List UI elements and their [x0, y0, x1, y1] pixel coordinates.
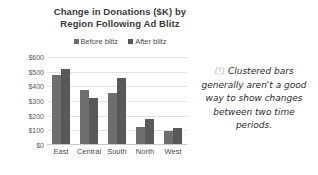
- x-tick-label-south: South: [104, 147, 130, 156]
- legend-swatch-icon-before-blitz: [74, 39, 79, 44]
- bar-central-series-1: [80, 90, 89, 145]
- x-tick-label-east: East: [48, 147, 74, 156]
- y-tick-label: $0: [36, 142, 44, 149]
- y-tick-label: $100: [28, 127, 44, 134]
- warning-icon: (!): [214, 66, 225, 76]
- bars-layer: [47, 57, 187, 145]
- bar-south-series-1: [108, 93, 117, 145]
- x-tick-label-north: North: [132, 147, 158, 156]
- bar-group-west: [164, 57, 182, 145]
- bar-central-series-2: [89, 98, 98, 145]
- y-tick-label: $400: [28, 83, 44, 90]
- bar-south-series-2: [117, 78, 126, 145]
- chart-legend: Before blitz After blitz: [30, 37, 210, 46]
- x-tick-label-central: Central: [76, 147, 102, 156]
- y-axis: $0$100$200$300$400$500$600: [0, 57, 47, 145]
- bar-east-series-1: [52, 75, 61, 145]
- x-axis: EastCentralSouthNorthWest: [47, 147, 187, 161]
- y-tick-label: $200: [28, 112, 44, 119]
- bar-east-series-2: [61, 69, 70, 145]
- chart-screenshot: Change in Donations ($K) by Region Follo…: [0, 0, 318, 175]
- legend-item-before-blitz: Before blitz: [74, 37, 119, 46]
- y-tick-label: $600: [28, 54, 44, 61]
- bar-north-series-1: [136, 127, 145, 145]
- bar-north-series-2: [145, 119, 154, 145]
- page-title: Change in Donations ($K) by Region Follo…: [30, 6, 210, 30]
- x-tick-label-west: West: [160, 147, 186, 156]
- bar-group-east: [52, 57, 70, 145]
- axis-baseline: [47, 144, 187, 145]
- chart-title-line-2: Region Following Ad Blitz: [30, 18, 210, 30]
- bar-west-series-2: [173, 128, 182, 145]
- y-tick-label: $500: [28, 68, 44, 75]
- bar-group-north: [136, 57, 154, 145]
- annotation-callout: (!) Clustered bars generally aren't a go…: [196, 65, 312, 133]
- legend-swatch-icon-after-blitz: [128, 39, 133, 44]
- legend-label-before-blitz: Before blitz: [81, 37, 119, 46]
- bar-west-series-1: [164, 131, 173, 145]
- bar-group-south: [108, 57, 126, 145]
- legend-label-after-blitz: After blitz: [135, 37, 166, 46]
- bar-group-central: [80, 57, 98, 145]
- legend-item-after-blitz: After blitz: [128, 37, 166, 46]
- chart-title-line-1: Change in Donations ($K) by: [30, 6, 210, 18]
- plot-area: [47, 57, 187, 145]
- y-tick-label: $300: [28, 98, 44, 105]
